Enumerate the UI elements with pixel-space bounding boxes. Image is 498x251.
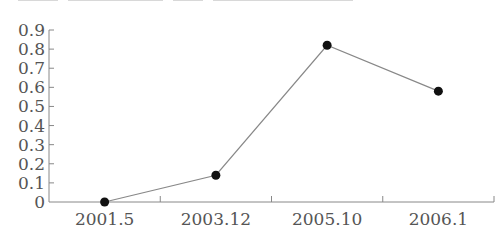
data-point-marker: [434, 87, 443, 96]
y-tick-label: 0.9: [18, 20, 45, 40]
y-tick-label: 0: [34, 192, 45, 212]
y-tick-label: 0.1: [18, 173, 45, 193]
data-point-marker: [211, 171, 220, 180]
y-tick-label: 0.3: [18, 135, 45, 155]
x-tick-label: 2003.12: [181, 209, 251, 229]
y-tick-label: 0.4: [18, 116, 45, 136]
x-tick-label: 2001.5: [75, 209, 134, 229]
x-tick-label: 2006.1: [409, 209, 468, 229]
y-tick-label: 0.6: [18, 77, 45, 97]
line-chart: 00.10.20.30.40.50.60.70.80.9 2001.52003.…: [0, 0, 498, 251]
y-tick-label: 0.8: [18, 39, 45, 59]
x-axis-ticks: 2001.52003.122005.102006.1: [75, 196, 494, 229]
y-tick-label: 0.7: [18, 58, 45, 78]
axes: [49, 30, 494, 202]
series-line: [105, 45, 439, 202]
y-tick-label: 0.5: [18, 96, 45, 116]
y-tick-label: 0.2: [18, 154, 45, 174]
x-tick-label: 2005.10: [292, 209, 362, 229]
data-point-marker: [323, 41, 332, 50]
data-series: [100, 41, 443, 207]
data-point-marker: [100, 198, 109, 207]
